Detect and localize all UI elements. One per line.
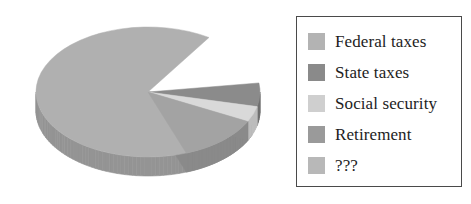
legend-item-label: Retirement — [335, 126, 412, 143]
legend-swatch-icon — [308, 157, 325, 174]
legend-item-retirement[interactable]: Retirement — [297, 119, 461, 150]
legend-item-social-security[interactable]: Social security — [297, 88, 461, 119]
legend-item-label: Social security — [335, 95, 437, 112]
chart-legend: Federal taxes State taxes Social securit… — [296, 16, 462, 187]
legend-item-state-taxes[interactable]: State taxes — [297, 57, 461, 88]
legend-swatch-icon — [308, 33, 325, 50]
legend-item-label: State taxes — [335, 64, 409, 81]
pie-top-faces — [36, 27, 260, 157]
legend-item-label: ??? — [335, 157, 358, 174]
legend-item-federal-taxes[interactable]: Federal taxes — [297, 26, 461, 57]
pie-chart — [0, 0, 290, 204]
pie-chart-svg — [0, 0, 290, 204]
legend-item-unknown[interactable]: ??? — [297, 150, 461, 181]
legend-swatch-icon — [308, 64, 325, 81]
legend-item-label: Federal taxes — [335, 33, 426, 50]
chart-canvas: Federal taxes State taxes Social securit… — [0, 0, 471, 204]
legend-swatch-icon — [308, 126, 325, 143]
legend-swatch-icon — [308, 95, 325, 112]
